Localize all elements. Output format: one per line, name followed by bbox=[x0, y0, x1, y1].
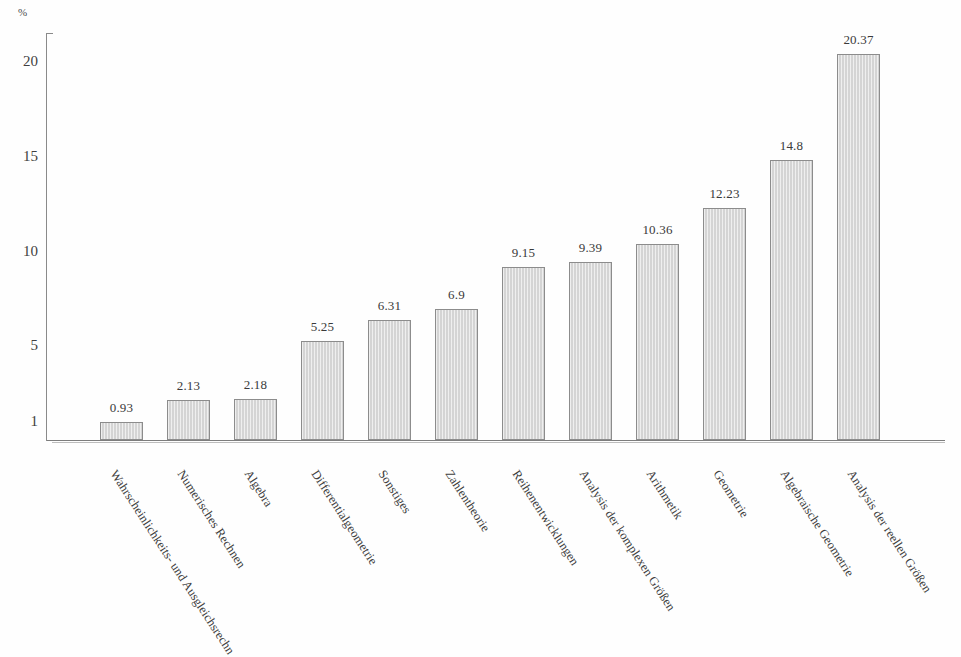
x-axis-category-label: Arithmetik bbox=[642, 467, 685, 522]
bar-value-label: 0.93 bbox=[110, 400, 134, 416]
x-axis-category-label: Geometrie bbox=[709, 467, 751, 520]
bar[interactable] bbox=[502, 267, 545, 440]
bar[interactable] bbox=[100, 422, 143, 440]
x-axis-category-label: Wahrscheinlichkeits- und Ausgleichsrechn bbox=[106, 467, 237, 657]
bar[interactable] bbox=[301, 341, 344, 440]
x-axis-category-label: Algebraische Geometrie bbox=[776, 467, 856, 579]
x-axis-category-label: Numerisches Rechnen bbox=[173, 467, 248, 571]
x-axis-category-label: Reihenentwicklungen bbox=[508, 467, 581, 568]
bar-chart: % 15101520 0.93Wahrscheinlichkeits- und … bbox=[0, 0, 961, 657]
x-axis-category-label: Algebra bbox=[240, 467, 275, 510]
bar[interactable] bbox=[837, 54, 880, 440]
bar-value-label: 14.8 bbox=[780, 138, 804, 154]
bar-value-label: 5.25 bbox=[311, 319, 335, 335]
bar[interactable] bbox=[167, 400, 210, 440]
bar-value-label: 6.31 bbox=[378, 298, 402, 314]
x-axis-category-label: Differentialgeometrie bbox=[307, 467, 380, 568]
bar[interactable] bbox=[770, 160, 813, 440]
bar-value-label: 6.9 bbox=[448, 287, 465, 303]
bar-value-label: 10.36 bbox=[642, 222, 672, 238]
bar[interactable] bbox=[636, 244, 679, 440]
bar[interactable] bbox=[234, 399, 277, 440]
bar-value-label: 9.15 bbox=[512, 245, 536, 261]
bar[interactable] bbox=[569, 262, 612, 440]
bars-layer: 0.93Wahrscheinlichkeits- und Ausgleichsr… bbox=[0, 0, 961, 657]
bar[interactable] bbox=[435, 309, 478, 440]
bar[interactable] bbox=[368, 320, 411, 440]
bar-value-label: 2.18 bbox=[244, 377, 268, 393]
x-axis-category-label: Zahlentheorie bbox=[441, 467, 492, 534]
bar-value-label: 9.39 bbox=[579, 240, 603, 256]
bar-value-label: 20.37 bbox=[843, 32, 873, 48]
bar-value-label: 2.13 bbox=[177, 378, 201, 394]
x-axis-category-label: Sonstiges bbox=[374, 467, 413, 516]
bar-value-label: 12.23 bbox=[709, 186, 739, 202]
bar[interactable] bbox=[703, 208, 746, 440]
x-axis-category-label: Analysis der reellen Größen bbox=[843, 467, 934, 595]
